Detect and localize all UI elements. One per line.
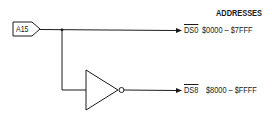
addresses-header: ADDRESSES [216,8,262,18]
signal-ds0: DS0 [184,25,198,35]
range-ds0: $0000 – $7FFF [202,25,252,35]
range-ds8: $8000 – $FFFF [206,85,257,95]
wire-ds8 [124,90,176,91]
inverter-gate-icon [86,70,118,110]
inverter-bubble-icon [119,88,124,93]
arrow-ds8-icon [176,88,182,93]
arrow-ds0-icon [176,28,182,33]
wire-ds0 [40,30,176,31]
signal-ds8: DS8 [184,85,198,95]
input-label-a15: A15 [16,24,28,34]
